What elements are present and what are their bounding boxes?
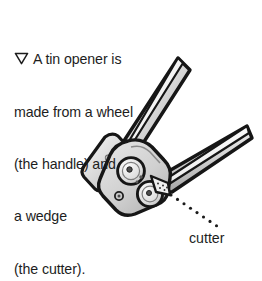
caption-line-2: made from a wheel <box>14 104 194 121</box>
caption-text: A tin opener is made from a wheel (the h… <box>14 16 194 281</box>
caption-line-4: a wedge <box>14 208 194 225</box>
caption-line-5: (the cutter). <box>14 261 194 278</box>
triangle-down-icon <box>14 52 29 69</box>
caption-line-3: (the handle) and <box>14 156 194 173</box>
caption-line-1: A tin opener is <box>33 51 121 67</box>
cutter-callout-label: cutter <box>189 230 224 246</box>
caption-first-line-row: A tin opener is <box>14 51 194 69</box>
